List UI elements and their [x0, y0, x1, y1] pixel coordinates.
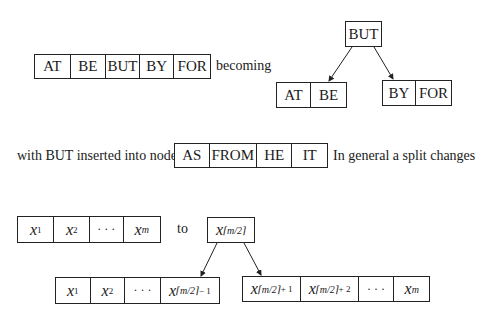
arrow-icon — [201, 243, 217, 276]
arrow-icon — [329, 47, 352, 81]
tree-edges — [0, 0, 490, 315]
arrow-icon — [244, 243, 261, 275]
arrow-icon — [374, 47, 393, 79]
